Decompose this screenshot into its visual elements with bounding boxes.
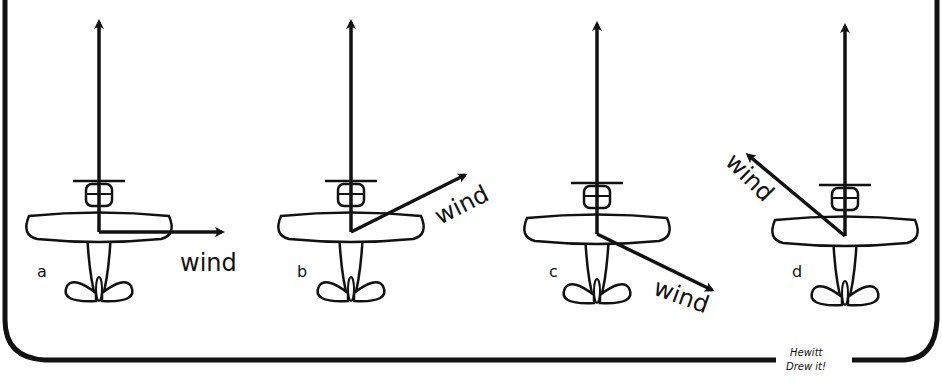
airplane-wind-vectors-diagram: wind a wind b wind c wind d Hewitt Drew … <box>0 0 942 391</box>
wind-label: wind <box>650 273 713 319</box>
panel-label: d <box>792 262 802 281</box>
panel-label: c <box>549 262 558 281</box>
frame-border <box>5 0 937 360</box>
wind-label: wind <box>720 147 780 207</box>
svg-text:Hewitt: Hewitt <box>790 347 824 358</box>
panel-c: wind c <box>524 24 713 319</box>
panel-label: b <box>297 262 307 281</box>
panel-d: wind d <box>720 26 918 305</box>
panel-a: wind a <box>26 22 236 301</box>
panel-b: wind b <box>278 22 493 301</box>
svg-text:Drew it!: Drew it! <box>786 361 826 372</box>
panel-label: a <box>37 262 47 281</box>
wind-label: wind <box>180 249 237 277</box>
